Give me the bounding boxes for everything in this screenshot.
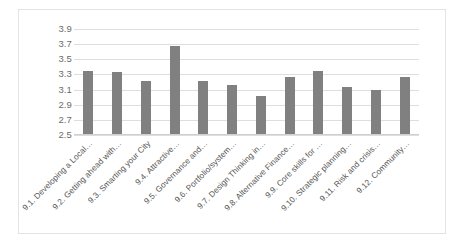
plot-area	[74, 29, 419, 135]
bar-slot	[74, 29, 103, 135]
bar[interactable]	[313, 71, 323, 135]
y-tick-label: 2.9	[58, 100, 72, 110]
bar[interactable]	[227, 85, 237, 135]
bar-slot	[189, 29, 218, 135]
bar-slot	[103, 29, 132, 135]
y-tick-label: 3.5	[58, 55, 72, 65]
bar-slot	[218, 29, 247, 135]
bar-slot	[132, 29, 161, 135]
y-tick-label: 3.9	[58, 24, 72, 34]
y-tick-label: 3.1	[58, 85, 72, 95]
bar-slot	[333, 29, 362, 135]
bar[interactable]	[342, 87, 352, 135]
y-axis: 3.93.73.53.33.12.92.72.5	[44, 29, 72, 135]
x-tick-label: 9.12. Community…	[355, 139, 411, 195]
bar-slot	[390, 29, 419, 135]
y-tick-label: 2.5	[58, 130, 72, 140]
bar[interactable]	[256, 96, 266, 135]
bar-slot	[275, 29, 304, 135]
x-axis: 9.1. Developing a Local…9.2. Getting ahe…	[74, 135, 419, 235]
bar[interactable]	[285, 77, 295, 135]
bars-series	[74, 29, 419, 135]
bar[interactable]	[141, 81, 151, 135]
bar[interactable]	[371, 90, 381, 135]
bar[interactable]	[170, 46, 180, 135]
bar[interactable]	[112, 72, 122, 135]
bar-slot	[247, 29, 276, 135]
y-tick-label: 3.7	[58, 39, 72, 49]
bar-slot	[362, 29, 391, 135]
bar[interactable]	[198, 81, 208, 136]
bar-slot	[160, 29, 189, 135]
bar[interactable]	[400, 77, 410, 135]
y-tick-label: 2.7	[58, 115, 72, 125]
y-tick-label: 3.3	[58, 70, 72, 80]
bar[interactable]	[83, 71, 93, 135]
bar-chart-figure: 3.93.73.53.33.12.92.72.5 9.1. Developing…	[0, 0, 462, 250]
bar-slot	[304, 29, 333, 135]
